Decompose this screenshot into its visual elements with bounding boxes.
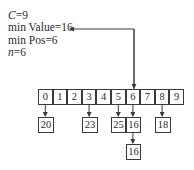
bucket-node-3: 23 bbox=[82, 117, 98, 133]
array-cell-1: 1 bbox=[53, 89, 68, 105]
array-cell-7: 7 bbox=[140, 89, 155, 105]
bucket-node-5: 25 bbox=[111, 117, 126, 133]
array-cell-8: 8 bbox=[155, 89, 170, 105]
connector-arrows bbox=[0, 0, 194, 170]
array-cell-5: 5 bbox=[111, 89, 126, 105]
array-cell-9: 9 bbox=[169, 89, 184, 105]
array-cell-6: 6 bbox=[126, 89, 141, 105]
bucket-node-8: 18 bbox=[155, 117, 171, 133]
min-pointer-arrow bbox=[70, 29, 134, 89]
array-cell-4: 4 bbox=[96, 89, 111, 105]
bucket-node-0: 20 bbox=[38, 117, 54, 133]
array-cell-0: 0 bbox=[38, 89, 53, 105]
array-cell-2: 2 bbox=[67, 89, 82, 105]
bucket-node-6-b: 16 bbox=[126, 144, 141, 160]
bucket-node-6-a: 16 bbox=[126, 117, 141, 133]
array-cell-3: 3 bbox=[82, 89, 97, 105]
